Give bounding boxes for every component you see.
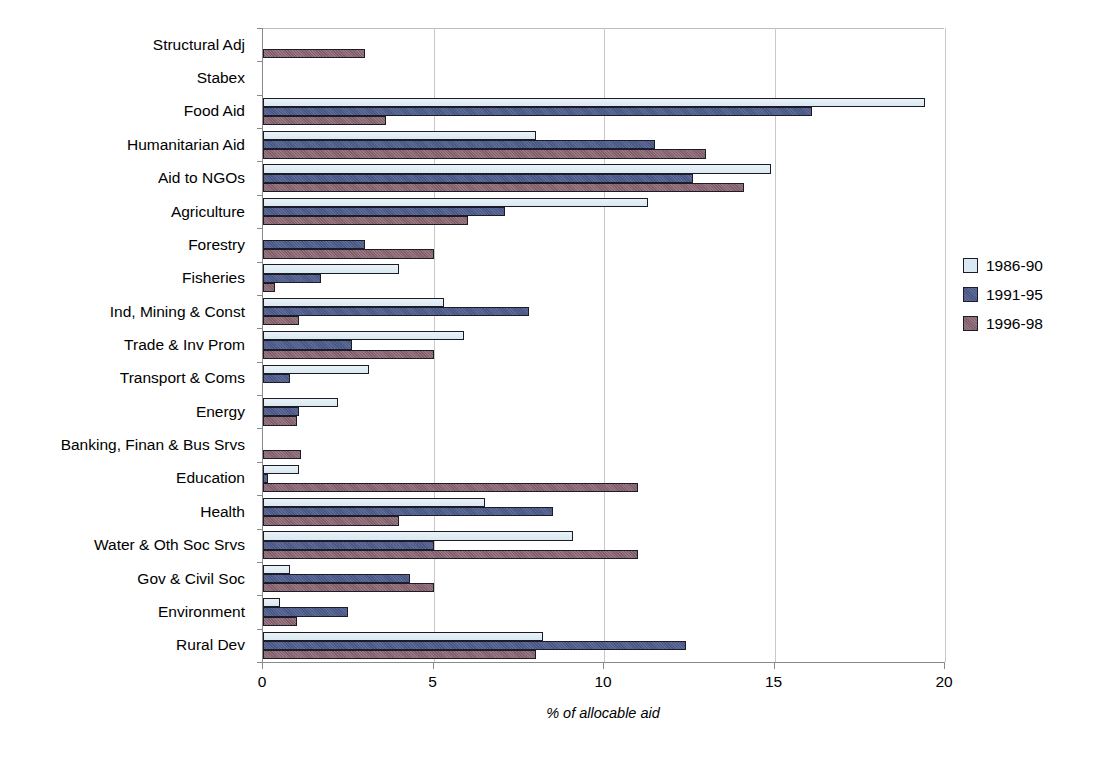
- bar: [263, 264, 399, 273]
- gridline: [604, 28, 605, 662]
- bar: [263, 398, 338, 407]
- category-axis-label: Humanitarian Aid: [0, 137, 254, 153]
- x-axis-tick-label: 15: [744, 674, 804, 690]
- chart-legend: 1986-901991-951996-98: [963, 251, 1103, 338]
- x-axis-tick-label: 10: [573, 674, 633, 690]
- bar: [263, 607, 348, 616]
- legend-item-label: 1996-98: [986, 316, 1043, 332]
- bar: [263, 331, 464, 340]
- category-axis-tick: [257, 595, 263, 596]
- bar: [263, 216, 468, 225]
- x-axis-tick: [774, 662, 775, 669]
- category-axis-tick: [257, 495, 263, 496]
- category-axis-tick: [257, 161, 263, 162]
- category-axis-tick: [257, 362, 263, 363]
- category-axis: Structural AdjStabexFood AidHumanitarian…: [0, 28, 254, 662]
- bar: [263, 632, 543, 641]
- bar: [263, 207, 505, 216]
- legend-item-label: 1986-90: [986, 258, 1043, 274]
- category-axis-label: Food Aid: [0, 103, 254, 119]
- legend-swatch-icon: [963, 258, 978, 273]
- category-axis-tick: [257, 328, 263, 329]
- gridline: [945, 28, 946, 662]
- bar: [263, 149, 706, 158]
- bar: [263, 274, 321, 283]
- bar-chart: Structural AdjStabexFood AidHumanitarian…: [0, 0, 1113, 760]
- bar: [263, 465, 299, 474]
- gridline: [775, 28, 776, 662]
- bar: [263, 350, 434, 359]
- bar: [263, 49, 365, 58]
- bar: [263, 516, 399, 525]
- bar: [263, 140, 655, 149]
- bar: [263, 483, 638, 492]
- category-axis-tick: [257, 262, 263, 263]
- bar: [263, 198, 648, 207]
- bar: [263, 498, 485, 507]
- category-axis-tick: [257, 128, 263, 129]
- category-axis-label: Aid to NGOs: [0, 170, 254, 186]
- plot-area: [262, 28, 945, 662]
- bar: [263, 416, 297, 425]
- category-axis-tick: [257, 28, 263, 29]
- bar: [263, 641, 686, 650]
- bar: [263, 283, 275, 292]
- bar: [263, 374, 290, 383]
- legend-item-label: 1991-95: [986, 287, 1043, 303]
- bar: [263, 316, 299, 325]
- bar: [263, 131, 536, 140]
- bar: [263, 574, 410, 583]
- category-axis-label: Water & Oth Soc Srvs: [0, 537, 254, 553]
- bar: [263, 307, 529, 316]
- category-axis-label: Agriculture: [0, 204, 254, 220]
- category-axis-label: Stabex: [0, 70, 254, 86]
- bar: [263, 164, 771, 173]
- bar: [263, 116, 386, 125]
- bar: [263, 541, 434, 550]
- bar: [263, 550, 638, 559]
- category-axis-label: Health: [0, 504, 254, 520]
- bar: [263, 365, 369, 374]
- bar: [263, 407, 299, 416]
- category-axis-label: Gov & Civil Soc: [0, 571, 254, 587]
- bar: [263, 583, 434, 592]
- category-axis-label: Energy: [0, 404, 254, 420]
- legend-item: 1991-95: [963, 280, 1103, 309]
- x-axis-tick: [262, 662, 263, 669]
- bar: [263, 507, 553, 516]
- category-axis-label: Forestry: [0, 237, 254, 253]
- legend-item: 1996-98: [963, 309, 1103, 338]
- category-axis-tick: [257, 629, 263, 630]
- bar: [263, 565, 290, 574]
- bar: [263, 174, 693, 183]
- category-axis-label: Structural Adj: [0, 37, 254, 53]
- category-axis-label: Banking, Finan & Bus Srvs: [0, 437, 254, 453]
- x-axis-tick-label: 5: [403, 674, 463, 690]
- x-axis-tick-label: 20: [914, 674, 974, 690]
- category-axis-tick: [257, 428, 263, 429]
- x-axis-tick: [603, 662, 604, 669]
- bar: [263, 617, 297, 626]
- category-axis-tick: [257, 462, 263, 463]
- category-axis-tick: [257, 61, 263, 62]
- category-axis-label: Trade & Inv Prom: [0, 337, 254, 353]
- category-axis-label: Fisheries: [0, 270, 254, 286]
- bar: [263, 650, 536, 659]
- category-axis-label: Rural Dev: [0, 637, 254, 653]
- x-axis-tick: [433, 662, 434, 669]
- bar: [263, 474, 268, 483]
- category-axis-tick: [257, 95, 263, 96]
- category-axis-label: Transport & Coms: [0, 370, 254, 386]
- category-axis-tick: [257, 395, 263, 396]
- bar: [263, 183, 744, 192]
- category-axis-label: Environment: [0, 604, 254, 620]
- bar: [263, 107, 812, 116]
- bar: [263, 531, 573, 540]
- bar: [263, 450, 301, 459]
- x-axis-title: % of allocable aid: [262, 706, 944, 721]
- legend-swatch-icon: [963, 316, 978, 331]
- bar: [263, 240, 365, 249]
- category-axis-label: Education: [0, 470, 254, 486]
- x-axis-tick: [944, 662, 945, 669]
- bar: [263, 298, 444, 307]
